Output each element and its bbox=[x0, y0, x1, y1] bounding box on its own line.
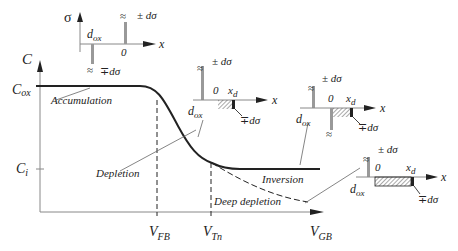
svg-text:x: x bbox=[158, 37, 165, 51]
inversion-label: Inversion bbox=[261, 173, 304, 185]
svg-text:± dσ: ± dσ bbox=[322, 72, 342, 84]
diagram-canvas: C Cox Ci VFB VTn VGB Accumulation Deplet… bbox=[0, 0, 458, 251]
inset-deep-depletion: ≈ ± dσ x 0 xd ∓dσ dox bbox=[350, 143, 447, 205]
svg-text:x: x bbox=[379, 101, 386, 115]
svg-text:dox: dox bbox=[87, 27, 102, 43]
svg-text:x: x bbox=[271, 93, 278, 107]
ci-label: Ci bbox=[16, 161, 28, 178]
svg-text:dox: dox bbox=[188, 104, 203, 120]
svg-text:∓dσ: ∓dσ bbox=[418, 193, 439, 205]
svg-text:xd: xd bbox=[405, 161, 416, 176]
mos-cv-diagram: C Cox Ci VFB VTn VGB Accumulation Deplet… bbox=[0, 0, 458, 251]
accumulation-label: Accumulation bbox=[50, 94, 113, 106]
depletion-label: Depletion bbox=[95, 167, 140, 179]
svg-text:σ: σ bbox=[64, 10, 72, 25]
svg-text:± dσ: ± dσ bbox=[137, 9, 157, 21]
y-axis-label: C bbox=[22, 51, 33, 67]
svg-text:0: 0 bbox=[213, 84, 219, 96]
svg-text:dox: dox bbox=[296, 112, 311, 128]
vfb-label: VFB bbox=[149, 224, 170, 242]
svg-text:xd: xd bbox=[227, 84, 238, 99]
vtn-label: VTn bbox=[203, 224, 222, 242]
svg-text:0: 0 bbox=[328, 92, 334, 104]
svg-text:0: 0 bbox=[375, 161, 381, 173]
svg-text:≈: ≈ bbox=[120, 10, 126, 22]
svg-text:± dσ: ± dσ bbox=[212, 55, 232, 67]
cox-label: Cox bbox=[12, 82, 31, 98]
svg-text:∓dσ: ∓dσ bbox=[358, 121, 379, 133]
svg-text:≈: ≈ bbox=[363, 153, 369, 165]
svg-text:x: x bbox=[440, 170, 447, 184]
svg-text:≈: ≈ bbox=[326, 128, 332, 140]
svg-text:≈: ≈ bbox=[197, 62, 203, 74]
svg-text:∓dσ: ∓dσ bbox=[240, 114, 261, 126]
main-axes bbox=[36, 60, 324, 215]
svg-text:± dσ: ± dσ bbox=[378, 143, 398, 155]
svg-text:∓dσ: ∓dσ bbox=[100, 65, 121, 77]
inset-inversion: ≈ ± dσ x ≈ 0 xd ∓dσ dox bbox=[296, 72, 386, 140]
inset-depletion: ≈ ± dσ x 0 xd ∓dσ dox bbox=[188, 55, 278, 126]
svg-text:dox: dox bbox=[350, 182, 365, 198]
svg-text:0: 0 bbox=[121, 46, 127, 58]
svg-text:≈: ≈ bbox=[87, 64, 93, 76]
inset-accumulation: σ x ≈ ± dσ 0 ≈ ∓dσ dox bbox=[64, 9, 165, 77]
vgb-label: VGB bbox=[310, 224, 332, 242]
svg-text:xd: xd bbox=[345, 92, 356, 107]
svg-text:≈: ≈ bbox=[308, 82, 314, 94]
deep-depletion-label: Deep depletion bbox=[213, 195, 281, 207]
